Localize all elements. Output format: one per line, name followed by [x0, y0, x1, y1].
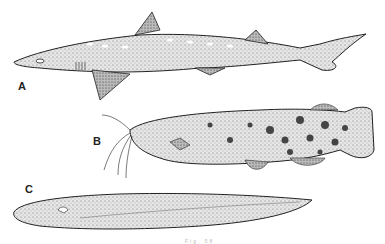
shark-drawing: [14, 12, 366, 100]
fish-illustration: [0, 0, 385, 244]
label-a: A: [18, 80, 26, 92]
eel-drawing: [14, 193, 312, 229]
catfish-drawing: [102, 104, 374, 178]
figure-caption: Fig. 58: [185, 238, 214, 244]
label-b: B: [93, 135, 101, 147]
label-c: C: [25, 183, 33, 195]
